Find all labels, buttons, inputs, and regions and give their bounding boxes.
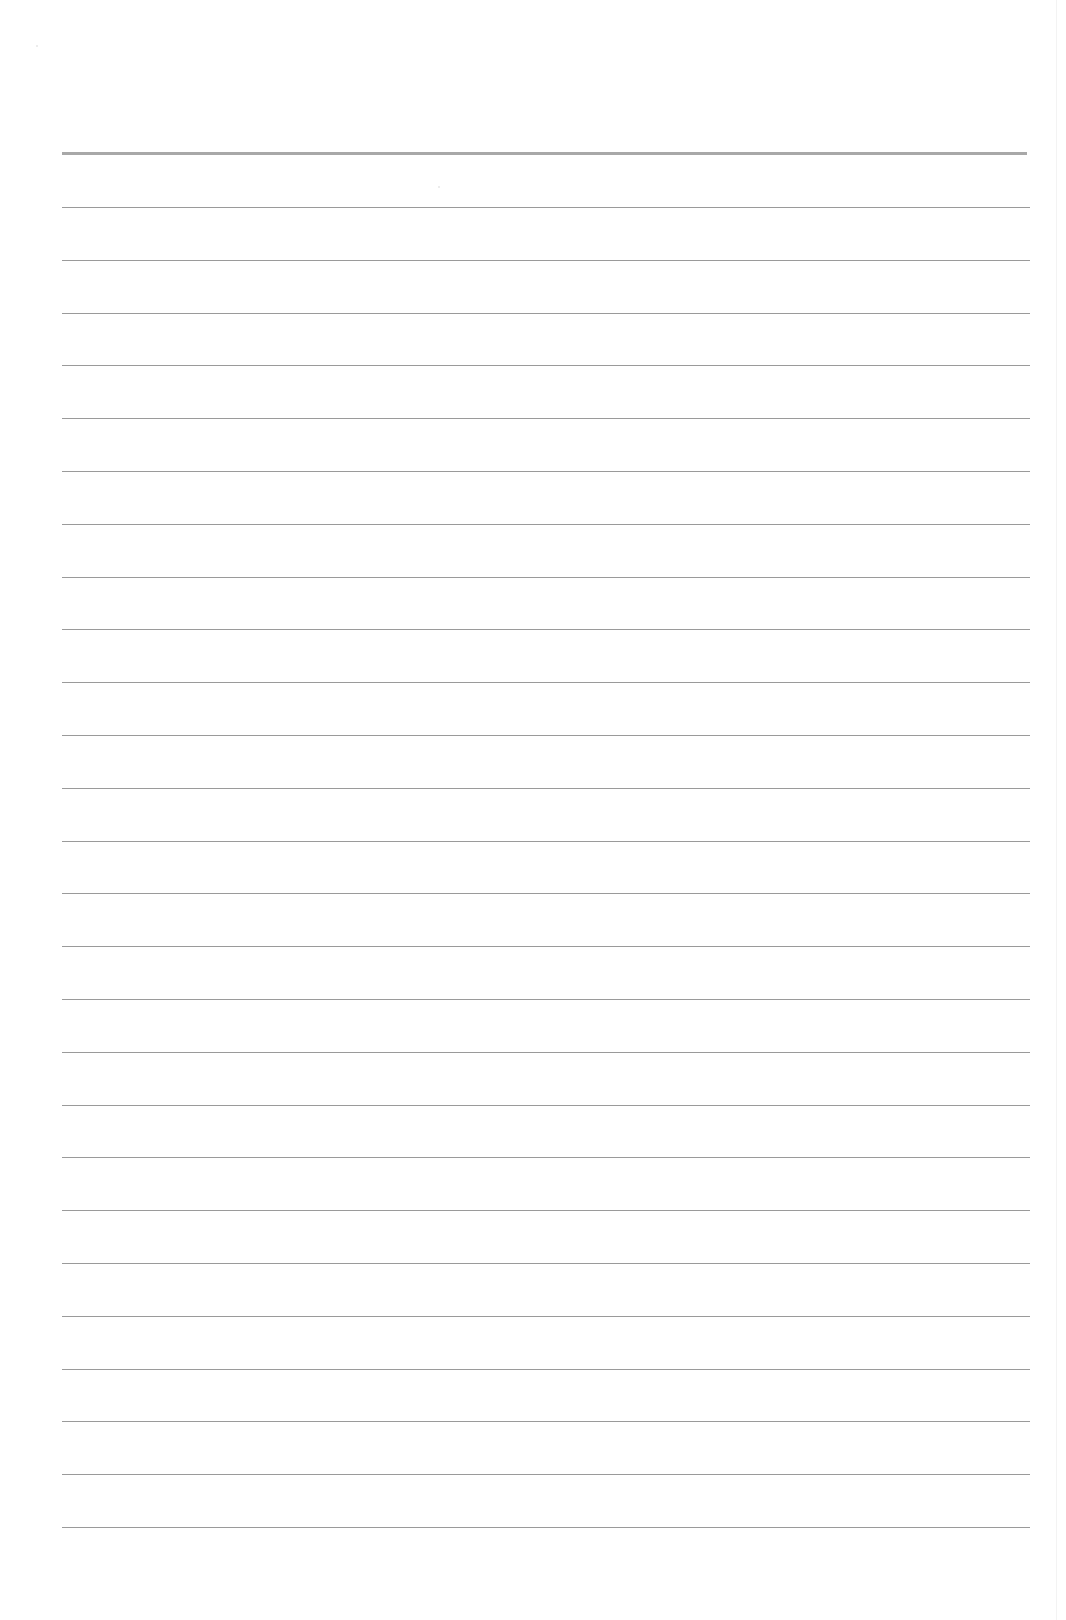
ruled-line (62, 577, 1030, 578)
ruled-line (62, 260, 1030, 261)
ruled-line (62, 1527, 1030, 1528)
ruled-line (62, 1263, 1030, 1264)
ruled-line (62, 471, 1030, 472)
ruled-line (62, 841, 1030, 842)
ruled-line (62, 418, 1030, 419)
ruled-line (62, 629, 1030, 630)
ruled-line (62, 313, 1030, 314)
ruled-line (62, 893, 1030, 894)
ruled-line (62, 1105, 1030, 1106)
ruled-line (62, 207, 1030, 208)
ruled-line (62, 524, 1030, 525)
ruled-line (62, 1369, 1030, 1370)
lined-paper-page (0, 0, 1066, 1620)
ruled-line (62, 999, 1030, 1000)
ruled-line (62, 1052, 1030, 1053)
ruled-line (62, 946, 1030, 947)
ruled-line (62, 1421, 1030, 1422)
paper-speck (36, 45, 38, 47)
ruled-line (62, 682, 1030, 683)
page-edge (1056, 0, 1057, 1620)
ruled-line (62, 1210, 1030, 1211)
ruled-line (62, 1157, 1030, 1158)
header-rule (62, 152, 1027, 155)
ruled-line (62, 788, 1030, 789)
ruled-line (62, 365, 1030, 366)
ruled-line (62, 1474, 1030, 1475)
ruled-line (62, 735, 1030, 736)
ruled-line (62, 1316, 1030, 1317)
paper-speck (438, 186, 440, 188)
